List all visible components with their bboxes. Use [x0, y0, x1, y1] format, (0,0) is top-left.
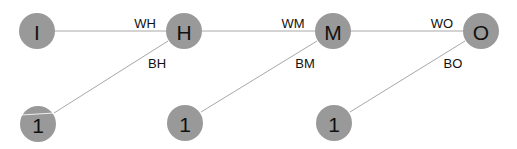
edge-bias2-m — [201, 41, 317, 112]
edge-label-bh: BH — [148, 56, 166, 71]
node-output-o: O — [463, 13, 499, 49]
node-label: I — [34, 21, 40, 44]
node-hidden-h: H — [166, 13, 202, 49]
node-label: 1 — [32, 114, 44, 137]
node-bias-1: 1 — [20, 106, 56, 142]
node-label: O — [473, 21, 489, 44]
edge-label-wh: WH — [134, 16, 156, 31]
node-label: H — [176, 21, 191, 44]
edge-bias3-o — [350, 41, 465, 112]
neural-network-diagram: WH BH WM BM WO BO I H M O 1 1 1 — [0, 0, 517, 149]
edge-label-bo: BO — [444, 56, 463, 71]
edge-bias1-h — [54, 41, 168, 113]
edge-label-bm: BM — [295, 56, 315, 71]
node-bias-3: 1 — [316, 105, 352, 141]
node-input-i: I — [19, 13, 55, 49]
node-bias-2: 1 — [167, 105, 203, 141]
edges — [54, 31, 465, 113]
edge-label-wo: WO — [431, 16, 453, 31]
node-label: M — [324, 21, 342, 44]
node-label: 1 — [179, 113, 191, 136]
node-m: M — [315, 13, 351, 49]
node-label: 1 — [328, 113, 340, 136]
edge-label-wm: WM — [281, 16, 304, 31]
